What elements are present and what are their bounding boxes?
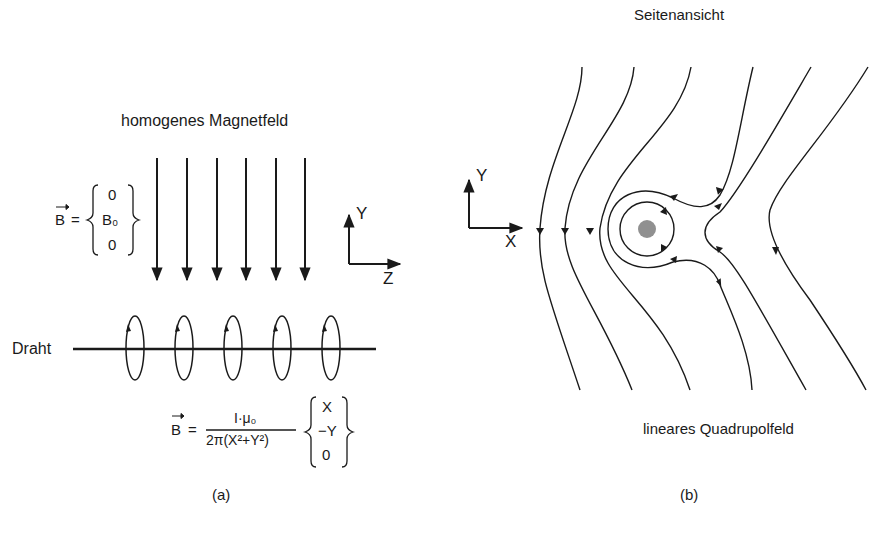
vector-homogeneous-row-3: 0 [108,236,116,253]
formula-wire-denominator: 2π(X²+Y²) [206,432,269,448]
formula-wire-numerator: I·μ₀ [234,410,256,426]
formula-b-lhs: B [55,211,65,228]
panel-b-subtitle: lineares Quadrupolfeld [643,420,794,437]
axis-a-z-label: Z [383,269,393,289]
axis-xy-icon [469,180,522,228]
vector-wire-row-2: −Y [318,422,337,439]
loop-arrow-icons [126,324,327,332]
axis-b-y-label: Y [476,166,487,186]
formula-b-equals: = [71,211,80,228]
axis-b-x-label: X [505,232,516,252]
axis-a-y-label: Y [356,204,367,224]
panel-a-caption: (a) [212,486,230,503]
field-line-arrow-icons [536,187,779,286]
homogeneous-field-arrows [157,158,305,280]
panel-a-title: homogenes Magnetfeld [121,112,288,130]
vector-arrow-b1-icon [56,205,69,210]
panel-b-title: Seitenansicht [634,6,724,23]
vector-homogeneous-row-2: B₀ [102,211,118,228]
panel-b-caption: (b) [680,486,698,503]
vector-arrow-b2-icon [172,414,184,419]
vector-homogeneous-row-1: 0 [108,186,116,203]
formula-wire-lhs: B [171,421,181,438]
wire-label: Draht [12,340,51,358]
wire-cross-section [638,220,656,238]
diagram-canvas [0,0,886,534]
formula-wire-equals: = [188,421,197,438]
vector-wire-row-1: X [322,398,332,415]
vector-wire-row-3: 0 [322,446,330,463]
